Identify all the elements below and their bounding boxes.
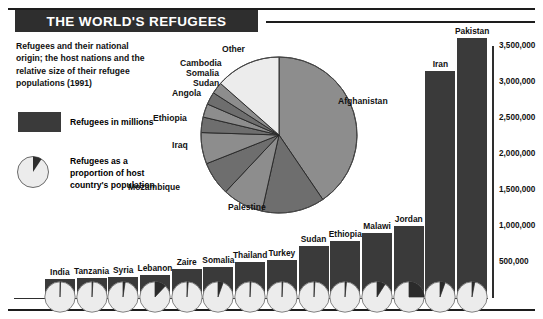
proportion-pie-lebanon [139, 281, 171, 313]
bar-pakistan [457, 38, 487, 297]
proportion-pie-somalia [202, 281, 234, 313]
axis-tick-3500000: 3,500,000 [499, 41, 535, 50]
value-axis-line [492, 46, 494, 298]
proportion-pie-tanzania [76, 281, 108, 313]
axis-tick-1500000: 1,500,000 [499, 185, 535, 194]
host-nation-bar-chart: IndiaTanzaniaSyriaLebanonZaireSomaliaTha… [0, 0, 543, 319]
proportion-pie-ethiopia [329, 281, 361, 313]
proportion-pie-turkey [266, 281, 298, 313]
proportion-pie-pakistan [456, 281, 488, 313]
axis-tick-3000000: 3,000,000 [499, 77, 535, 86]
axis-tick-2000000: 2,000,000 [499, 149, 535, 158]
axis-tick-1000000: 1,000,000 [499, 221, 535, 230]
bar-label-pakistan: Pakistan [432, 26, 512, 36]
proportion-pie-malawi [361, 281, 393, 313]
proportion-pie-zaire [171, 281, 203, 313]
bar-iran [425, 71, 455, 298]
proportion-pie-sudan [298, 281, 330, 313]
proportion-pie-india [44, 281, 76, 313]
proportion-pie-iran [424, 281, 456, 313]
proportion-pie-jordan [393, 281, 425, 313]
axis-tick-2500000: 2,500,000 [499, 113, 535, 122]
infographic-root: THE WORLD'S REFUGEES Refugees and their … [0, 0, 543, 319]
proportion-pie-thailand [234, 281, 266, 313]
proportion-pie-syria [107, 281, 139, 313]
axis-tick-500000: 500,000 [499, 257, 529, 266]
